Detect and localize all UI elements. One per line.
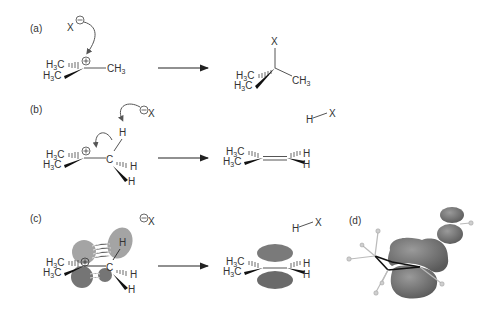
alkene-h-bottom: H bbox=[303, 269, 310, 280]
product-x: X bbox=[271, 36, 278, 47]
pi-orbital-bottom bbox=[257, 271, 293, 289]
alkene-methyl-wedge: H3C bbox=[223, 156, 241, 168]
hx-h: H bbox=[306, 114, 313, 125]
curved-arrow-icon bbox=[120, 104, 140, 119]
panel-d: (d) bbox=[347, 207, 473, 299]
carbon-beta: C bbox=[106, 262, 113, 273]
alkene-h-top: H bbox=[303, 258, 310, 269]
curved-arrow-icon bbox=[84, 22, 95, 52]
orbital-lobe-small-top bbox=[440, 207, 464, 223]
panel-a: (a) X H3C H3C CH3 X H3C bbox=[30, 16, 310, 92]
h-top: H bbox=[119, 237, 126, 248]
panel-label-d: (d) bbox=[349, 215, 361, 226]
hx-x: X bbox=[329, 108, 336, 119]
empty-p-orbital-bottom bbox=[71, 266, 93, 288]
base-x: X bbox=[148, 108, 155, 119]
h-wedge: H bbox=[128, 176, 135, 187]
wedge-bond bbox=[64, 68, 84, 79]
hx-h: H bbox=[292, 223, 299, 234]
panel-b: (b) X H H3C H3C C H bbox=[30, 104, 336, 187]
panel-label-a: (a) bbox=[30, 23, 42, 34]
empty-p-orbital-top bbox=[72, 240, 96, 264]
h-hashed: H bbox=[130, 269, 137, 280]
alkene-h-bottom: H bbox=[303, 159, 310, 170]
panel-label-b: (b) bbox=[30, 104, 42, 115]
panel-c: (c) X H H3C H3C C bbox=[30, 213, 322, 295]
h-hashed: H bbox=[130, 161, 137, 172]
methyl-wedge: H3C bbox=[43, 70, 61, 82]
hyperconjugation-diagram: (a) X H3C H3C CH3 X H3C bbox=[0, 0, 495, 314]
panel-label-c: (c) bbox=[30, 213, 42, 224]
methyl-wedge: H3C bbox=[43, 159, 61, 171]
nucleophile-x: X bbox=[67, 22, 74, 33]
pi-orbital-top bbox=[257, 244, 293, 262]
product-methyl-right: CH3 bbox=[292, 75, 310, 87]
curved-arrow-icon bbox=[96, 133, 112, 145]
methyl-right: CH3 bbox=[107, 63, 125, 75]
h-top: H bbox=[119, 127, 126, 138]
carbon-beta: C bbox=[106, 154, 113, 165]
hx-x: X bbox=[315, 217, 322, 228]
methyl-wedge: H3C bbox=[43, 267, 61, 279]
base-x: X bbox=[148, 216, 155, 227]
orbital-lobe-small-bottom bbox=[437, 224, 463, 244]
orbital-lobe-lower bbox=[391, 265, 437, 298]
alkene-h-top: H bbox=[303, 148, 310, 159]
h-wedge: H bbox=[128, 284, 135, 295]
alkene-methyl-wedge: H3C bbox=[223, 266, 241, 278]
